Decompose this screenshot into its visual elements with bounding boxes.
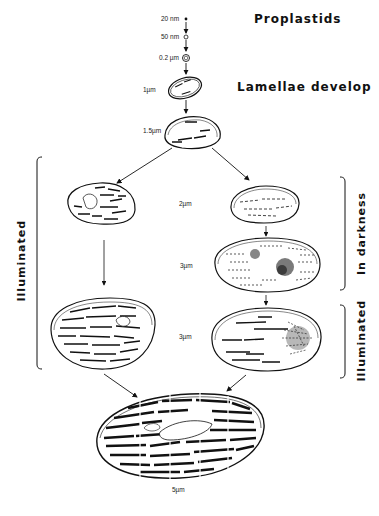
plastid-right-3um-dark xyxy=(215,238,320,292)
right-bracket-illuminated xyxy=(340,305,345,378)
size-label-1-5um: 1.5µm xyxy=(143,127,161,134)
plastid-left-2um-illuminated xyxy=(68,183,135,224)
plastid-1-5um xyxy=(165,117,220,149)
arrow-to-right-branch xyxy=(212,148,249,180)
size-label-3um-dark: 3µm xyxy=(180,262,193,269)
proplastid-02um-circle xyxy=(183,55,190,62)
size-label-2um: 2µm xyxy=(179,200,192,207)
size-label-50nm: 50 nm xyxy=(161,33,179,40)
heading-lamellae-develop: Lamellae develop xyxy=(237,80,372,94)
size-label-3um-illuminated: 3µm xyxy=(179,333,192,340)
size-label-5um: 5µm xyxy=(172,486,185,493)
plastid-development-diagram: Proplastids Lamellae develop 20 nm 50 nm… xyxy=(0,0,379,516)
size-label-20nm: 20 nm xyxy=(161,15,179,22)
plastid-left-3um-illuminated xyxy=(51,298,155,369)
bracket-label-left-illuminated: Illuminated xyxy=(15,222,28,302)
size-label-0-2um: 0.2 µm xyxy=(159,54,179,61)
size-label-1um: 1µm xyxy=(143,86,156,93)
plastid-1um xyxy=(166,73,205,103)
arrow-right-to-mature xyxy=(227,375,246,391)
right-bracket-darkness xyxy=(340,177,345,290)
arrow-left-to-mature xyxy=(104,374,137,397)
proplastid-20nm-dot xyxy=(185,18,188,21)
mature-chloroplast-5um xyxy=(97,393,264,480)
heading-proplastids: Proplastids xyxy=(254,12,341,26)
bracket-label-in-darkness: In darkness xyxy=(355,189,368,279)
plastid-right-3um-illuminated xyxy=(212,308,321,371)
bracket-label-right-illuminated: Illuminated xyxy=(355,302,368,382)
proplastid-50nm-circle xyxy=(184,35,188,39)
diagram-drawing xyxy=(0,0,379,516)
arrow-to-left-branch xyxy=(117,148,172,183)
left-bracket-illuminated xyxy=(37,157,42,369)
plastid-right-2um-dark xyxy=(231,186,299,223)
